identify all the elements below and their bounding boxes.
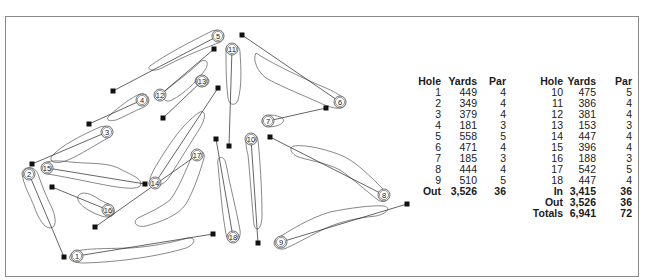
hole-number-2: 2 xyxy=(27,170,31,179)
hole-number-8: 8 xyxy=(382,191,386,200)
line-hole-16 xyxy=(52,187,108,210)
hole-number-12: 12 xyxy=(156,91,164,100)
green-hole-4: 4 xyxy=(136,94,148,106)
tee-marker-hole-3 xyxy=(30,162,35,167)
green-hole-5: 5 xyxy=(212,30,224,42)
line-hole-1 xyxy=(77,234,213,256)
back-hole-column: Hole 10 11 12 13 14 15 16 17 18 In Out T… xyxy=(506,76,563,219)
hole-lines xyxy=(29,35,407,257)
hole-number-10: 10 xyxy=(247,135,255,144)
green-hole-1: 1 xyxy=(71,250,83,262)
fairway-hole-1 xyxy=(70,238,194,263)
green-hole-15: 15 xyxy=(41,162,53,174)
green-hole-6: 6 xyxy=(334,96,346,108)
line-hole-11 xyxy=(229,49,232,146)
green-hole-11: 11 xyxy=(226,43,238,55)
tee-marker-hole-15 xyxy=(143,182,148,187)
out-yards: 3,526 xyxy=(441,186,477,197)
tee-marker-hole-9 xyxy=(405,202,410,207)
green-hole-18: 18 xyxy=(227,231,239,243)
line-hole-7 xyxy=(268,108,326,121)
out-label: Out xyxy=(400,186,441,197)
fairway-hole-6 xyxy=(255,53,345,108)
green-hole-17: 17 xyxy=(191,149,203,161)
back-yards-column: Yards 475 386 381 153 447 396 188 542 44… xyxy=(563,76,596,219)
tee-marker-hole-2 xyxy=(62,255,67,260)
tee-marker-hole-6 xyxy=(240,33,245,38)
green-hole-7: 7 xyxy=(262,115,274,127)
tee-marker-hole-4 xyxy=(87,122,92,127)
green-hole-2: 2 xyxy=(23,168,35,180)
tee-marker-hole-7 xyxy=(324,106,329,111)
line-hole-13 xyxy=(163,81,202,118)
tee-marker-hole-11 xyxy=(227,144,232,149)
tee-marker-hole-1 xyxy=(211,232,216,237)
green-hole-8: 8 xyxy=(378,189,390,201)
fairway-hole-17 xyxy=(135,151,204,226)
front-par-column: Par 4 4 4 3 5 4 3 4 5 36 xyxy=(477,76,506,197)
fairway-hole-15 xyxy=(42,161,141,188)
tee-marker-hole-8 xyxy=(268,135,273,140)
hole-number-15: 15 xyxy=(43,164,51,173)
line-hole-17 xyxy=(95,155,197,227)
line-hole-6 xyxy=(242,35,340,102)
tee-marker-hole-13 xyxy=(161,116,166,121)
out-par: 36 xyxy=(477,186,506,197)
hole-number-14: 14 xyxy=(151,179,159,188)
hole-number-18: 18 xyxy=(229,233,237,242)
fairway-hole-8 xyxy=(291,146,387,202)
hole-number-13: 13 xyxy=(198,77,206,86)
hole-number-16: 16 xyxy=(104,206,112,215)
green-hole-16: 16 xyxy=(102,204,114,216)
line-hole-18 xyxy=(216,139,233,237)
hole-number-5: 5 xyxy=(216,32,220,41)
green-hole-13: 13 xyxy=(196,75,208,87)
totals-label: Totals xyxy=(506,208,563,219)
tee-marker-hole-18 xyxy=(214,137,219,142)
hole-number-11: 11 xyxy=(228,45,236,54)
hole-number-1: 1 xyxy=(75,252,79,261)
hole-number-3: 3 xyxy=(105,128,109,137)
totals-yards: 6,941 xyxy=(563,208,596,219)
fairway-hole-9 xyxy=(274,206,388,249)
line-hole-2 xyxy=(29,174,64,257)
totals-par: 72 xyxy=(596,208,632,219)
hole-number-6: 6 xyxy=(338,98,342,107)
tee-marker-hole-17 xyxy=(93,225,98,230)
line-hole-10 xyxy=(251,139,258,243)
green-hole-14: 14 xyxy=(149,177,161,189)
hole-number-7: 7 xyxy=(266,117,270,126)
hole-number-4: 4 xyxy=(140,96,144,105)
tee-markers xyxy=(30,33,410,260)
green-markers: 1 2 3 4 5 6 7 8 9 10 11 12 13 14 15 16 1… xyxy=(23,30,390,262)
green-hole-10: 10 xyxy=(245,133,257,145)
tee-marker-hole-5 xyxy=(111,89,116,94)
front-hole-column: Hole 1 2 3 4 5 6 7 8 9 Out xyxy=(400,76,441,197)
front-yards-column: Yards 449 349 379 181 558 471 185 444 51… xyxy=(441,76,477,197)
hole-number-9: 9 xyxy=(279,238,283,247)
tee-marker-hole-16 xyxy=(50,185,55,190)
hole-number-17: 17 xyxy=(193,151,201,160)
tee-marker-hole-14 xyxy=(216,86,221,91)
line-hole-8 xyxy=(270,137,384,195)
tee-marker-hole-10 xyxy=(256,241,261,246)
green-hole-3: 3 xyxy=(101,126,113,138)
fairways xyxy=(22,30,388,263)
tee-marker-hole-12 xyxy=(212,47,217,52)
back-par-column: Par 5 4 4 3 4 4 3 5 4 36 36 72 xyxy=(596,76,632,219)
green-hole-12: 12 xyxy=(154,89,166,101)
fairway-hole-14 xyxy=(150,112,205,186)
green-hole-9: 9 xyxy=(275,236,287,248)
line-hole-15 xyxy=(47,168,145,184)
